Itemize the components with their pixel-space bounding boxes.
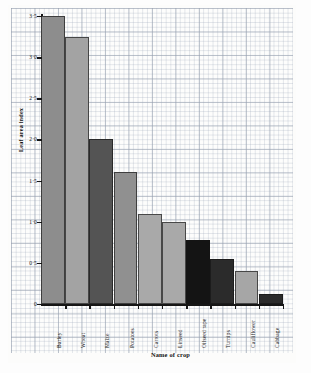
y-tick-label: 0·5 bbox=[29, 260, 37, 266]
x-axis-label-linseed: Linseed bbox=[177, 330, 183, 348]
bar-oilseed-rape bbox=[186, 240, 210, 304]
y-tick-label: 2·0 bbox=[29, 136, 37, 142]
y-tick-mark bbox=[37, 16, 42, 17]
x-tick-mark bbox=[259, 304, 260, 309]
x-axis-label-potatoes: Potatoes bbox=[129, 328, 135, 348]
y-tick-mark bbox=[37, 222, 42, 223]
bar-maize bbox=[89, 139, 113, 304]
bar-turnips bbox=[210, 259, 234, 304]
x-tick-mark bbox=[235, 304, 236, 309]
y-tick-label: 1·5 bbox=[29, 178, 37, 184]
y-axis-title: Leaf area index bbox=[17, 108, 24, 152]
y-tick-mark bbox=[37, 304, 42, 305]
x-tick-mark bbox=[283, 304, 284, 309]
x-tick-mark bbox=[89, 304, 90, 309]
x-axis-label-cauliflower: Cauliflower bbox=[250, 320, 256, 348]
y-tick-label: 2·5 bbox=[29, 95, 37, 101]
x-tick-mark bbox=[138, 304, 139, 309]
x-axis-label-oilseed-rape: Oilseed rape bbox=[201, 319, 207, 348]
y-tick-mark bbox=[37, 57, 42, 58]
x-axis-label-barley: Barley bbox=[56, 332, 62, 348]
x-tick-mark bbox=[65, 304, 66, 309]
x-tick-mark bbox=[162, 304, 163, 309]
bar-cauliflower bbox=[235, 271, 259, 304]
y-tick-label: 1·0 bbox=[29, 219, 37, 225]
y-tick-mark bbox=[37, 263, 42, 264]
bar-barley bbox=[41, 16, 65, 304]
x-tick-mark bbox=[186, 304, 187, 309]
x-axis-label-cabbage: Cabbage bbox=[274, 328, 280, 348]
y-tick-mark bbox=[37, 181, 42, 182]
y-tick-mark bbox=[37, 98, 42, 99]
bar-potatoes bbox=[114, 172, 138, 304]
bar-wheat bbox=[65, 37, 89, 304]
plot-area bbox=[41, 16, 283, 304]
y-tick-label: 0 bbox=[34, 301, 37, 307]
x-tick-mark bbox=[114, 304, 115, 309]
x-axis-label-carrots: Carrots bbox=[153, 331, 159, 348]
y-tick-mark bbox=[37, 139, 42, 140]
y-tick-label: 3·0 bbox=[29, 54, 37, 60]
y-tick-label: 3·5 bbox=[29, 13, 37, 19]
bar-linseed bbox=[162, 222, 186, 304]
x-tick-mark bbox=[210, 304, 211, 309]
x-axis-label-wheat: Wheat bbox=[80, 333, 86, 348]
x-axis-label-turnips: Turnips bbox=[225, 330, 231, 348]
bar-carrots bbox=[138, 214, 162, 305]
x-axis-title: Name of crop bbox=[0, 351, 311, 358]
x-axis-label-maize: Maize bbox=[104, 334, 110, 349]
bar-cabbage bbox=[259, 294, 283, 304]
chart-page: Leaf area index Name of crop 00·51·01·52… bbox=[0, 0, 311, 373]
